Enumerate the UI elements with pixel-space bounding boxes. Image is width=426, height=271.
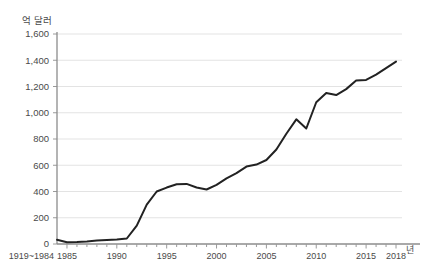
x-axis-tick-label: 1919~1984 — [9, 251, 54, 261]
x-axis-tick-label: 2005 — [256, 251, 276, 261]
y-axis-tick-label: 800 — [33, 133, 49, 144]
x-axis-tick-label: 1985 — [57, 251, 77, 261]
x-axis-tick-label: 2015 — [356, 251, 376, 261]
y-axis-tick-label: 1,600 — [25, 28, 49, 39]
x-axis-tick-label: 2018 — [386, 251, 406, 261]
y-axis-tick-label: 600 — [33, 160, 49, 171]
y-axis-tick-label: 200 — [33, 212, 49, 223]
chart-container: 억 달러 년 02004006008001,0001,2001,4001,600… — [0, 0, 426, 271]
data-series-group — [57, 62, 396, 243]
x-axis-tick-label: 2000 — [207, 251, 227, 261]
data-line — [57, 62, 396, 243]
gridlines-group — [57, 34, 402, 218]
x-axis-tick-label: 1990 — [107, 251, 127, 261]
y-axis-tick-label: 1,000 — [25, 107, 49, 118]
y-axis-tick-label: 1,200 — [25, 81, 49, 92]
x-axis-group: 1919~19841985199019952000200520102015201… — [9, 244, 420, 261]
y-axis-tick-label: 0 — [44, 238, 49, 249]
x-axis-tick-label: 1995 — [157, 251, 177, 261]
line-chart-svg: 02004006008001,0001,2001,4001,600 1919~1… — [0, 0, 426, 271]
y-axis-group: 02004006008001,0001,2001,4001,600 — [25, 28, 57, 249]
y-axis-tick-label: 400 — [33, 186, 49, 197]
x-axis-tick-label: 2010 — [306, 251, 326, 261]
y-axis-tick-label: 1,400 — [25, 55, 49, 66]
